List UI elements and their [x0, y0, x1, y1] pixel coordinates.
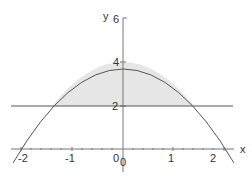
- y-axis-label: y: [103, 10, 109, 22]
- x-tick-label: -1: [65, 152, 75, 164]
- y-tick-label: 2: [112, 100, 118, 112]
- y-tick-label: 4: [113, 56, 119, 68]
- x-tick-label: -2: [18, 152, 28, 164]
- x-tick-label: 0: [113, 152, 119, 164]
- x-axis-label: x: [240, 143, 246, 155]
- y-tick-label: 6: [113, 13, 119, 25]
- x-tick-label: 2: [210, 152, 216, 164]
- x-tick-label: 1: [168, 152, 174, 164]
- x-tick-label: 0: [120, 156, 126, 168]
- plot-canvas: -2 -1 0 0 1 2 2 4 6 x y: [0, 0, 252, 178]
